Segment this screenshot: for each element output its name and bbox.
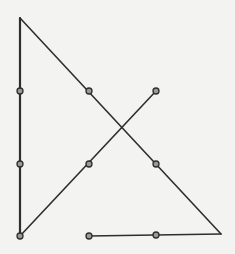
dot-8 <box>86 233 92 239</box>
dot-6 <box>153 161 159 167</box>
line-segment-3 <box>20 18 221 234</box>
solution-lines <box>20 18 221 236</box>
dot-5 <box>86 161 92 167</box>
dot-1 <box>17 88 23 94</box>
dot-7 <box>17 233 23 239</box>
nine-dot-diagram <box>0 0 235 254</box>
dot-3 <box>153 88 159 94</box>
dot-9 <box>153 232 159 238</box>
dot-4 <box>17 161 23 167</box>
dot-2 <box>86 88 92 94</box>
